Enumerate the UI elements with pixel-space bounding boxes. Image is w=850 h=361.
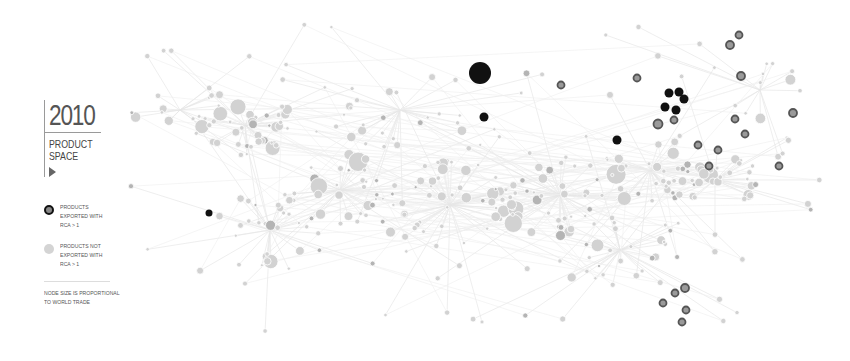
product-node[interactable] (564, 155, 568, 159)
product-node[interactable] (607, 91, 614, 98)
product-node[interactable] (217, 104, 220, 107)
product-node[interactable] (785, 74, 796, 85)
product-node[interactable] (677, 133, 682, 138)
product-node[interactable] (573, 164, 577, 168)
product-node[interactable] (686, 170, 690, 174)
product-node[interactable] (446, 206, 449, 209)
product-node[interactable] (584, 242, 588, 246)
product-node[interactable] (676, 221, 680, 225)
product-node[interactable] (671, 138, 679, 146)
product-node[interactable] (520, 178, 525, 183)
product-node[interactable] (164, 116, 173, 125)
rca-product-node[interactable] (726, 41, 734, 49)
product-node[interactable] (539, 194, 544, 199)
product-node[interactable] (458, 114, 461, 117)
product-node[interactable] (384, 313, 388, 317)
product-node[interactable] (374, 198, 377, 201)
rca-product-node[interactable] (681, 284, 689, 292)
rca-product-node[interactable] (654, 120, 663, 129)
product-node[interactable] (661, 178, 667, 184)
product-node[interactable] (263, 329, 268, 334)
product-node[interactable] (750, 164, 754, 168)
product-node[interactable] (655, 141, 662, 148)
product-node[interactable] (412, 225, 417, 230)
product-node[interactable] (618, 258, 624, 264)
product-node[interactable] (604, 33, 608, 37)
product-node[interactable] (606, 158, 609, 161)
product-node[interactable] (197, 267, 204, 274)
rca-product-node[interactable] (776, 163, 783, 170)
product-node[interactable] (556, 217, 562, 223)
product-node[interactable] (476, 163, 480, 167)
product-node[interactable] (422, 230, 426, 234)
product-node[interactable] (676, 191, 683, 198)
product-node[interactable] (457, 185, 463, 191)
product-node[interactable] (347, 169, 350, 172)
product-node[interactable] (485, 227, 488, 230)
product-node[interactable] (338, 166, 344, 172)
product-node[interactable] (335, 183, 339, 187)
rca-product-node[interactable] (672, 106, 681, 115)
product-node[interactable] (504, 188, 508, 192)
product-node[interactable] (380, 131, 384, 135)
product-node[interactable] (680, 166, 686, 172)
product-node[interactable] (394, 90, 399, 95)
product-node[interactable] (785, 137, 791, 143)
product-node[interactable] (556, 231, 566, 241)
product-node[interactable] (718, 175, 723, 180)
product-node[interactable] (546, 211, 550, 215)
product-node[interactable] (525, 189, 529, 193)
rca-product-node[interactable] (683, 307, 690, 314)
product-node[interactable] (287, 212, 291, 216)
product-space-network[interactable] (0, 0, 850, 361)
product-node[interactable] (314, 190, 323, 199)
product-node[interactable] (240, 126, 245, 131)
product-node[interactable] (584, 214, 587, 217)
product-node[interactable] (309, 216, 314, 221)
product-node[interactable] (358, 126, 367, 135)
product-node[interactable] (436, 176, 441, 181)
product-node[interactable] (712, 249, 718, 255)
product-node[interactable] (697, 41, 703, 47)
product-node[interactable] (381, 197, 384, 200)
product-node[interactable] (216, 91, 224, 99)
product-node[interactable] (597, 264, 600, 267)
product-node[interactable] (440, 224, 445, 229)
product-node[interactable] (675, 255, 680, 260)
product-node[interactable] (747, 192, 754, 199)
rca-product-node[interactable] (736, 32, 743, 39)
product-node[interactable] (662, 240, 666, 244)
product-node[interactable] (494, 206, 497, 209)
product-node[interactable] (655, 53, 662, 60)
product-node[interactable] (470, 316, 476, 322)
product-node[interactable] (601, 273, 605, 277)
product-node[interactable] (629, 245, 633, 249)
product-node[interactable] (375, 193, 379, 197)
product-node[interactable] (361, 184, 366, 189)
product-node[interactable] (275, 202, 281, 208)
product-node[interactable] (600, 193, 604, 197)
product-node[interactable] (695, 178, 704, 187)
product-node[interactable] (633, 272, 640, 279)
product-node[interactable] (334, 124, 339, 129)
product-node[interactable] (558, 225, 564, 231)
product-node[interactable] (450, 160, 454, 164)
rca-product-node[interactable] (480, 113, 489, 122)
product-node[interactable] (504, 214, 522, 232)
product-node[interactable] (249, 120, 258, 129)
product-node[interactable] (429, 74, 436, 81)
product-node[interactable] (238, 152, 243, 157)
product-node[interactable] (494, 188, 497, 191)
rca-product-node[interactable] (671, 117, 678, 124)
product-node[interactable] (618, 164, 626, 172)
product-node[interactable] (245, 153, 248, 156)
product-node[interactable] (247, 54, 252, 59)
product-node[interactable] (584, 135, 588, 139)
product-node[interactable] (567, 273, 576, 282)
product-node[interactable] (264, 258, 271, 265)
product-node[interactable] (359, 212, 363, 216)
product-node[interactable] (213, 139, 220, 146)
product-node[interactable] (493, 128, 496, 131)
product-node[interactable] (363, 168, 367, 172)
product-node[interactable] (650, 198, 655, 203)
